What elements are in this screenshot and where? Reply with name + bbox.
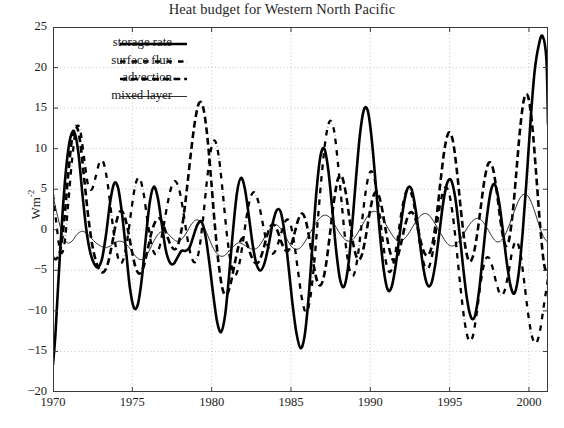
legend-label-storage-rate: storage rate bbox=[68, 35, 172, 50]
y-tick-label: −10 bbox=[5, 303, 47, 318]
legend-label-advection: advection bbox=[68, 70, 172, 85]
legend-label-surface-flux: surface flux bbox=[68, 53, 172, 68]
x-tick-label: 1980 bbox=[182, 395, 242, 410]
chart-title: Heat budget for Western North Pacific bbox=[0, 1, 564, 18]
y-axis-label-text: Wm bbox=[28, 197, 43, 219]
y-tick-label: 25 bbox=[5, 19, 47, 34]
y-tick-label: 15 bbox=[5, 100, 47, 115]
y-tick-label: 0 bbox=[5, 222, 47, 237]
x-tick-label: 1970 bbox=[23, 395, 83, 410]
x-tick-label: 1995 bbox=[420, 395, 480, 410]
x-tick-label: 1975 bbox=[102, 395, 162, 410]
legend-label-mixed-layer: mixed layer bbox=[68, 88, 172, 103]
y-tick-label: 5 bbox=[5, 181, 47, 196]
y-tick-label: 20 bbox=[5, 60, 47, 75]
y-tick-label: −5 bbox=[5, 262, 47, 277]
chart-figure: Heat budget for Western North Pacific Wm… bbox=[0, 0, 564, 428]
y-tick-label: 10 bbox=[5, 141, 47, 156]
x-tick-label: 2000 bbox=[499, 395, 559, 410]
y-tick-label: −15 bbox=[5, 343, 47, 358]
x-tick-label: 1985 bbox=[261, 395, 321, 410]
x-tick-label: 1990 bbox=[340, 395, 400, 410]
